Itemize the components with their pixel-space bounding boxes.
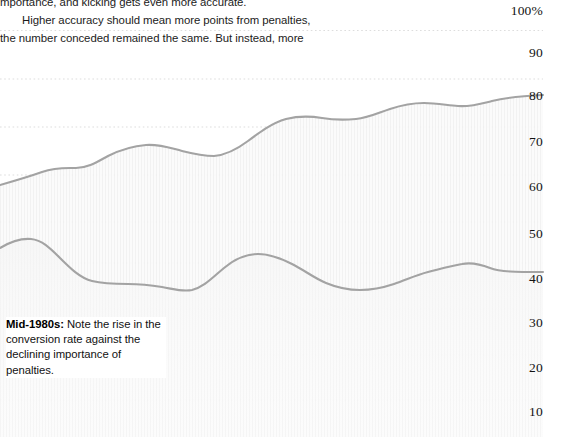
chart-page: 100% 90 80 70 60 50 40 30 20 10 mportanc… <box>0 0 561 437</box>
article-body-copy: mportance, and kicking gets even more ac… <box>0 0 330 47</box>
annotation-text: Mid-1980s: Note the rise in the conversi… <box>6 317 166 378</box>
copy-line-3: the number conceded remained the same. B… <box>0 29 330 47</box>
copy-line-1: mportance, and kicking gets even more ac… <box>0 0 330 11</box>
annotation-lead: Mid-1980s: <box>6 318 64 330</box>
chart-annotation: Mid-1980s: Note the rise in the conversi… <box>6 317 166 378</box>
copy-line-2: Higher accuracy should mean more points … <box>0 11 330 29</box>
